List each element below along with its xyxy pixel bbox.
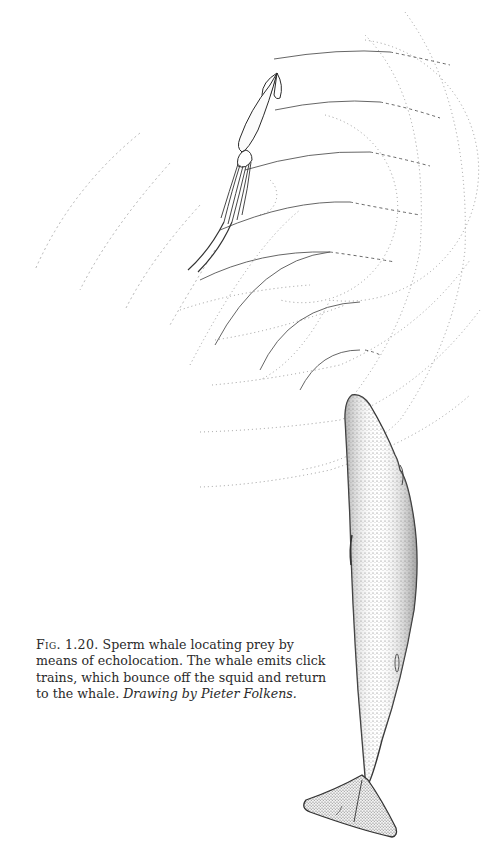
figure-caption: Fig. 1.20. Sperm whale locating prey by … — [36, 637, 328, 703]
echo-arcs-returning — [180, 12, 480, 487]
echo-arcs-outgoing — [200, 51, 450, 390]
echo-arcs-left — [35, 133, 215, 325]
sperm-whale — [304, 395, 417, 837]
squid — [188, 73, 281, 272]
figure-label: Fig. 1.20. — [36, 637, 99, 652]
echolocation-drawing — [0, 0, 503, 864]
caption-credit: Drawing by Pieter Folkens. — [123, 686, 297, 701]
figure-illustration: Fig. 1.20. Sperm whale locating prey by … — [0, 0, 503, 864]
whale-fluke — [304, 775, 397, 837]
